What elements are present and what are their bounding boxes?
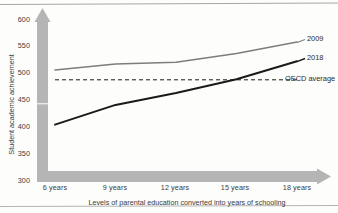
series-line-2009 (55, 42, 297, 70)
series-label-2009: 2009 (307, 34, 323, 43)
x-tick-label: 9 years (95, 183, 135, 192)
x-tick-label: 6 years (35, 183, 75, 192)
axis-arrows (35, 8, 332, 185)
line-chart-canvas (0, 0, 338, 213)
series-line-2018 (55, 61, 297, 124)
x-axis-title: Levels of parental education converted i… (47, 198, 327, 207)
x-tick-label: 12 years (155, 183, 195, 192)
x-tick-label: 18 years (277, 183, 317, 192)
leader-line-2009 (297, 40, 305, 43)
series-label-oecd-average: OECD average (285, 74, 335, 83)
y-axis-title: Student academic achievement (7, 50, 16, 160)
leader-line-2018 (297, 59, 305, 62)
x-tick-label: 15 years (215, 183, 255, 192)
chart-figure: 600 550 500 450 400 350 300 6 years 9 ye… (0, 0, 338, 213)
y-tick-label: 300 (8, 176, 30, 185)
series-label-2018: 2018 (307, 53, 323, 62)
y-tick-label: 600 (8, 15, 30, 24)
